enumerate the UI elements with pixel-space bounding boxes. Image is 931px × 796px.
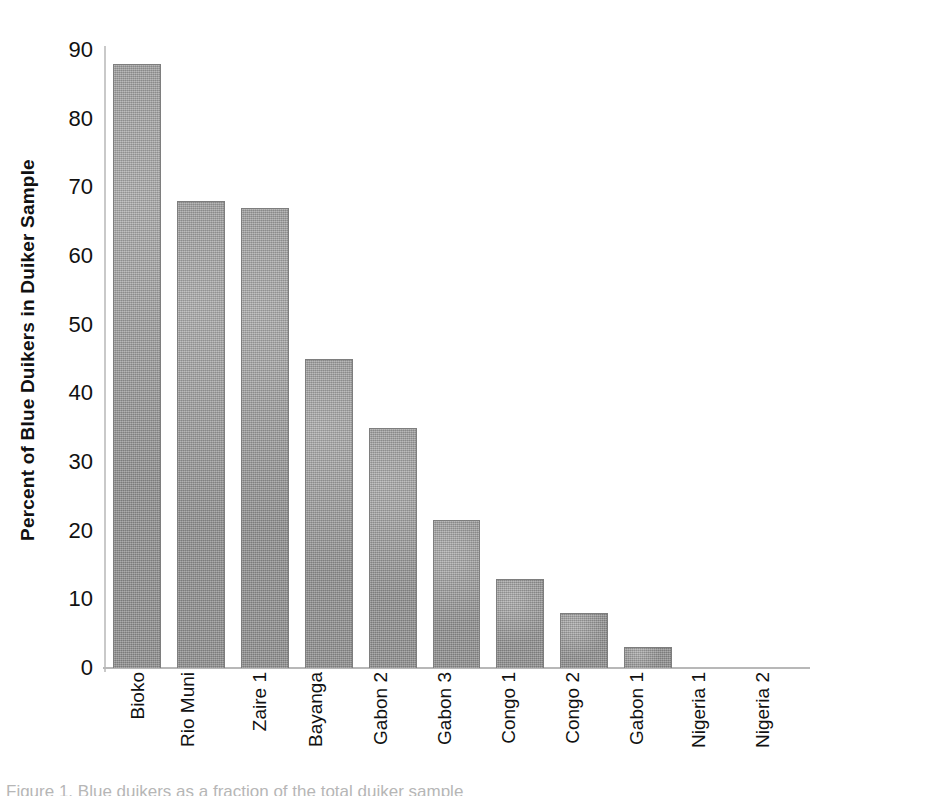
x-axis-tick-labels: BiokoRio MuniZaire 1BayangaGabon 2Gabon …	[105, 672, 808, 784]
x-axis-tick-label: Zaire 1	[249, 672, 271, 735]
x-axis-tick: Bayanga	[297, 672, 361, 782]
y-axis-tick-label: 40	[39, 380, 93, 406]
bar-slot	[680, 50, 744, 668]
bar[interactable]	[433, 520, 481, 668]
x-axis-tick-label: Nigeria 1	[688, 672, 710, 752]
bar[interactable]	[624, 647, 672, 668]
x-axis-tick: Bioko	[105, 672, 169, 782]
x-axis-tick-label: Gabon 2	[370, 672, 392, 749]
y-axis-tick-label: 80	[39, 106, 93, 132]
bar-slot	[488, 50, 552, 668]
x-axis-tick-label: Nigeria 2	[752, 672, 774, 752]
x-axis-tick: Congo 1	[488, 672, 552, 782]
bar[interactable]	[369, 428, 417, 668]
x-axis-tick: Nigeria 1	[680, 672, 744, 782]
y-axis-tick-label: 10	[39, 586, 93, 612]
bar-series	[105, 50, 808, 668]
bar-slot	[105, 50, 169, 668]
chart-figure: Percent of Blue Duikers in Duiker Sample…	[0, 0, 931, 796]
bar-slot	[297, 50, 361, 668]
bar[interactable]	[113, 64, 161, 668]
x-axis-tick: Gabon 1	[616, 672, 680, 782]
bar[interactable]	[560, 613, 608, 668]
plot-area	[105, 50, 808, 668]
bar[interactable]	[241, 208, 289, 668]
y-axis-tick-label: 70	[39, 174, 93, 200]
bar-slot	[425, 50, 489, 668]
bar-slot	[552, 50, 616, 668]
x-axis-tick: Congo 2	[552, 672, 616, 782]
bar[interactable]	[305, 359, 353, 668]
y-axis-tick-label: 0	[39, 655, 93, 681]
x-axis-tick: Nigeria 2	[744, 672, 808, 782]
bar-slot	[361, 50, 425, 668]
x-axis-tick: Gabon 3	[425, 672, 489, 782]
bar-slot	[233, 50, 297, 668]
y-axis-tick-label: 30	[39, 449, 93, 475]
figure-caption: Figure 1. Blue duikers as a fraction of …	[0, 782, 931, 796]
y-axis-tick-label: 20	[39, 518, 93, 544]
bar-slot	[616, 50, 680, 668]
x-axis-tick: Zaire 1	[233, 672, 297, 782]
bar[interactable]	[177, 201, 225, 668]
x-axis-tick-label: Rio Muni	[177, 672, 199, 751]
y-axis-title-text: Percent of Blue Duikers in Duiker Sample	[17, 159, 39, 541]
x-axis-tick-label: Bayanga	[305, 672, 327, 751]
x-axis-tick-label: Gabon 1	[626, 672, 648, 749]
x-axis-tick-label: Bioko	[127, 672, 149, 724]
y-axis-tick-label: 50	[39, 312, 93, 338]
bar[interactable]	[496, 579, 544, 668]
x-axis-tick-label: Congo 2	[562, 672, 584, 748]
x-axis-tick-label: Congo 1	[498, 672, 520, 748]
y-axis-tick-label: 60	[39, 243, 93, 269]
bar-slot	[169, 50, 233, 668]
x-axis-tick: Rio Muni	[169, 672, 233, 782]
bar-slot	[744, 50, 808, 668]
x-axis-tick: Gabon 2	[361, 672, 425, 782]
x-axis-tick-label: Gabon 3	[434, 672, 456, 749]
y-axis-tick-label: 90	[39, 37, 93, 63]
